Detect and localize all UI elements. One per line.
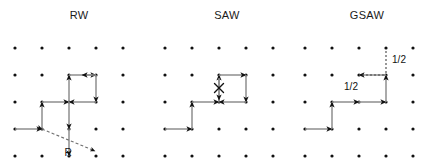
panel-title-saw: SAW [214, 9, 240, 21]
panel-title-rw: RW [70, 9, 89, 21]
annotation-label-prob-up: 1/2 [392, 54, 406, 65]
panel-title-gsaw: GSAW [350, 9, 385, 21]
walk-models-figure: RW [0, 0, 426, 163]
annotation-label-prob-left: 1/2 [344, 81, 358, 92]
annotation-label-r: R [64, 147, 71, 158]
figure-background [0, 0, 426, 163]
